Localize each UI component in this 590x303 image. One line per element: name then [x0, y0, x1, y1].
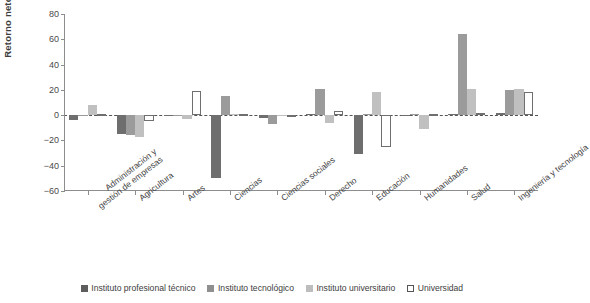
- y-axis-tick-mark: [61, 14, 65, 15]
- bar: [325, 115, 334, 123]
- bar: [259, 115, 268, 118]
- bar: [410, 114, 419, 115]
- y-axis-tick-label: −60: [25, 187, 59, 196]
- legend-label: Instituto profesional técnico: [91, 283, 195, 293]
- bar-group: [496, 14, 533, 191]
- bar: [448, 114, 457, 115]
- bar: [182, 115, 191, 119]
- bar: [419, 115, 428, 129]
- bar: [496, 113, 505, 116]
- bar: [458, 34, 467, 115]
- bar: [192, 91, 201, 115]
- y-axis-tick-label: −20: [25, 136, 59, 145]
- legend-swatch-icon: [306, 285, 313, 292]
- bar: [230, 114, 239, 115]
- bar: [117, 115, 126, 134]
- bar: [401, 115, 410, 116]
- chart-legend: Instituto profesional técnicoInstituto t…: [0, 283, 544, 293]
- y-axis-tick-mark: [61, 191, 65, 192]
- bar: [211, 115, 220, 178]
- bar-group: [211, 14, 248, 191]
- bar: [277, 115, 286, 116]
- y-axis-title: Retorno neto: [2, 0, 20, 82]
- bar-group: [164, 14, 201, 191]
- y-axis-tick-mark: [61, 90, 65, 91]
- bar: [372, 92, 381, 115]
- legend-label: Instituto tecnológico: [218, 283, 294, 293]
- y-axis-tick-mark: [61, 65, 65, 66]
- bar: [126, 115, 135, 135]
- y-axis-tick-label: 40: [25, 60, 59, 69]
- bar: [381, 115, 390, 147]
- bar: [287, 115, 296, 117]
- bar: [476, 113, 485, 116]
- y-axis-line: [64, 14, 65, 191]
- bar: [88, 105, 97, 115]
- y-axis-tick-label: 60: [25, 35, 59, 44]
- bar: [239, 114, 248, 116]
- bar: [78, 115, 87, 116]
- bar: [354, 115, 363, 154]
- bar: [467, 89, 476, 116]
- x-axis-tick-mark: [420, 191, 421, 195]
- legend-item[interactable]: Instituto profesional técnico: [81, 283, 196, 293]
- bar: [97, 114, 106, 116]
- bar: [429, 114, 438, 116]
- bar: [363, 114, 372, 115]
- x-axis-tick-mark: [183, 191, 184, 195]
- legend-swatch-icon: [207, 285, 214, 292]
- y-axis-tick-mark: [61, 39, 65, 40]
- bar-group: [448, 14, 485, 191]
- bar-group: [69, 14, 106, 191]
- bar: [144, 115, 153, 121]
- bar: [268, 115, 277, 124]
- y-axis-tick-label: −40: [25, 161, 59, 170]
- bar-group: [259, 14, 296, 191]
- legend-item[interactable]: Instituto tecnológico: [207, 283, 293, 293]
- y-axis-tick-label: 20: [25, 85, 59, 94]
- y-axis-tick-label: 80: [25, 10, 59, 19]
- legend-swatch-icon: [81, 285, 88, 292]
- bar: [524, 92, 533, 115]
- legend-item[interactable]: Instituto universitario: [306, 283, 395, 293]
- bar: [306, 114, 315, 115]
- bar: [334, 111, 343, 115]
- y-axis-tick-mark: [61, 140, 65, 141]
- bar: [135, 115, 144, 136]
- y-axis-tick-label: 0: [25, 111, 59, 120]
- y-axis-tick-mark: [61, 166, 65, 167]
- bar: [505, 90, 514, 115]
- bar: [514, 89, 523, 116]
- bar: [69, 115, 78, 120]
- bar-group: [354, 14, 391, 191]
- bar: [164, 115, 173, 116]
- bar: [221, 96, 230, 115]
- bar: [173, 115, 182, 116]
- bar-group: [401, 14, 438, 191]
- legend-label: Universidad: [418, 283, 463, 293]
- legend-label: Instituto universitario: [316, 283, 395, 293]
- legend-item[interactable]: Universidad: [407, 283, 463, 293]
- legend-swatch-icon: [407, 285, 414, 292]
- y-axis-tick-mark: [61, 115, 65, 116]
- bar: [315, 89, 324, 116]
